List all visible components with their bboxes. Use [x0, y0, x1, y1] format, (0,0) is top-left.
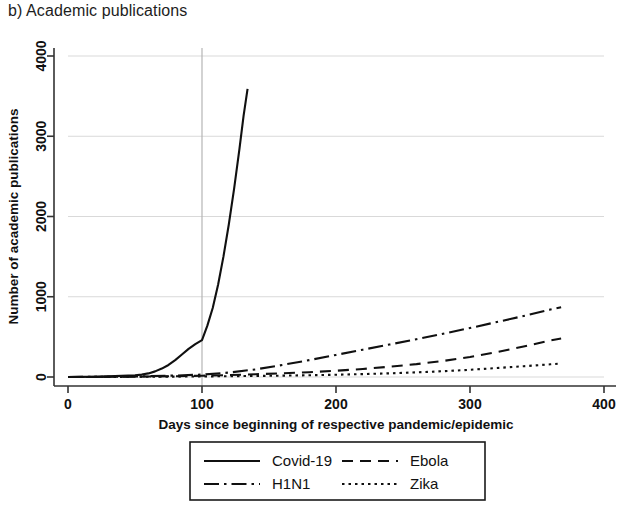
y-tick-label-3000: 3000: [33, 120, 49, 151]
chart-legend: Covid-19EbolaH1N1Zika: [190, 442, 485, 500]
x-tick-label-100: 100: [190, 396, 214, 412]
x-axis-title: Days since beginning of respective pande…: [159, 417, 514, 432]
legend-box: [190, 442, 485, 500]
legend-label-covid-19: Covid-19: [272, 452, 332, 469]
series-line-covid-19: [68, 89, 248, 377]
y-tick-label-2000: 2000: [33, 201, 49, 232]
x-tick-label-0: 0: [64, 396, 72, 412]
gridlines: [68, 56, 604, 377]
x-tick-label-200: 200: [324, 396, 348, 412]
data-series: [68, 89, 561, 377]
legend-label-zika: Zika: [410, 475, 439, 492]
y-tick-label-4000: 4000: [33, 40, 49, 71]
legend-label-h1n1: H1N1: [272, 475, 310, 492]
x-tick-label-400: 400: [592, 396, 616, 412]
y-axis-title: Number of academic publications: [6, 108, 21, 324]
y-tick-label-1000: 1000: [33, 281, 49, 312]
axis-titles: Number of academic publicationsDays sinc…: [6, 108, 514, 432]
axes: [47, 48, 616, 393]
figure-panel: b) Academic publications 010002000300040…: [0, 0, 632, 508]
legend-label-ebola: Ebola: [410, 452, 449, 469]
chart-canvas: 010002000300040000100200300400 Number of…: [0, 0, 632, 508]
series-line-ebola: [68, 338, 561, 377]
series-line-h1n1: [68, 307, 561, 377]
y-tick-label-0: 0: [33, 373, 49, 381]
x-tick-label-300: 300: [458, 396, 482, 412]
